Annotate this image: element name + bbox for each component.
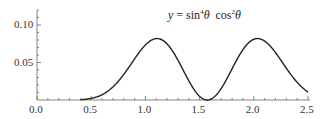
title-theta: θ [204,8,210,22]
x-tick-label: 0.5 [83,103,97,115]
x-tick-label: 1.5 [192,103,206,115]
axes [37,10,310,100]
x-tick-label: 2.0 [246,103,260,115]
chart-title: y = sin4θ cos2θ [168,8,241,23]
title-theta: θ [235,8,241,22]
x-tick-label: 2.5 [300,103,314,115]
x-tick-label: 1.0 [137,103,151,115]
plot-area [0,0,329,119]
chart: y = sin4θ cos2θ 0.00.51.01.52.02.50.050.… [0,0,329,119]
y-tick-label: 0.05 [14,56,33,68]
y-tick-label: 0.10 [14,18,33,30]
x-tick-label: 0.0 [29,103,43,115]
title-sin: sin [186,8,200,22]
title-eq: = [173,8,186,22]
title-cos: cos [216,8,232,22]
data-line [80,39,308,100]
